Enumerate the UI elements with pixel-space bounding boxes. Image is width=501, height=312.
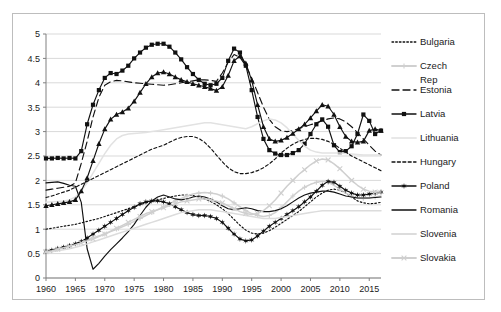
x-tick-label: 1965	[65, 284, 85, 294]
marker-star	[273, 219, 278, 225]
marker-triangle	[320, 102, 325, 107]
marker-triangle	[225, 73, 230, 78]
marker-square	[56, 156, 60, 160]
y-tick-label: 0	[35, 273, 40, 283]
legend-item-slovenia[interactable]: Slovenia	[392, 228, 457, 239]
legend-item-hungary[interactable]: Hungary	[392, 156, 456, 167]
marker-x	[337, 166, 342, 171]
marker-square	[126, 64, 130, 68]
legend-item-slovakia[interactable]: Slovakia	[392, 252, 457, 263]
marker-triangle	[267, 136, 272, 141]
y-tick-label: 2.5	[27, 151, 40, 161]
marker-x	[267, 203, 272, 208]
legend-label: Lithuania	[420, 132, 459, 143]
marker-square	[150, 43, 154, 47]
marker-triangle	[255, 102, 260, 107]
marker-square	[120, 69, 124, 73]
marker-square	[314, 122, 318, 126]
marker-square	[367, 119, 371, 123]
chart-screenshot: 00.511.522.533.544.551960196519701975198…	[0, 0, 501, 312]
y-tick-label: 3.5	[27, 103, 40, 113]
marker-triangle	[96, 141, 101, 146]
marker-cross	[402, 64, 407, 69]
x-axis-ticks: 1960196519701975198019851990199520002005…	[36, 278, 379, 294]
y-tick-label: 4	[35, 78, 40, 88]
marker-star	[102, 223, 107, 229]
marker-square	[291, 151, 295, 155]
line-chart: 00.511.522.533.544.551960196519701975198…	[0, 0, 501, 312]
marker-x	[279, 191, 284, 196]
marker-square	[402, 112, 406, 116]
legend: BulgariaCzechRepEstoniaLatviaLithuaniaHu…	[392, 36, 459, 263]
legend-item-czech[interactable]: Czech	[392, 60, 447, 71]
y-axis-ticks: 00.511.522.533.544.55	[27, 29, 46, 283]
marker-square	[197, 78, 201, 82]
marker-triangle	[284, 135, 289, 140]
legend-item-latvia[interactable]: Latvia	[392, 108, 446, 119]
legend-item-poland[interactable]: Poland	[392, 180, 450, 191]
x-tick-label: 2015	[359, 284, 379, 294]
marker-square	[103, 76, 107, 80]
y-tick-label: 0.5	[27, 249, 40, 259]
marker-square	[156, 42, 160, 46]
marker-square	[350, 144, 354, 148]
marker-triangle	[149, 74, 154, 79]
legend-item-lithuania[interactable]: Lithuania	[392, 132, 459, 143]
marker-square	[297, 148, 301, 152]
x-tick-label: 2000	[271, 284, 291, 294]
legend-label: Estonia	[420, 84, 452, 95]
series-line	[46, 189, 381, 234]
marker-square	[132, 56, 136, 60]
series-romania	[46, 182, 381, 269]
marker-cross	[208, 191, 213, 196]
marker-square	[361, 112, 365, 116]
marker-triangle	[90, 158, 95, 163]
x-tick-label: 1970	[95, 284, 115, 294]
x-tick-label: 1995	[242, 284, 262, 294]
marker-triangle	[173, 74, 178, 79]
y-tick-label: 1	[35, 225, 40, 235]
y-tick-label: 5	[35, 29, 40, 39]
legend-label: Czech	[420, 60, 447, 71]
legend-item-estonia[interactable]: Estonia	[392, 84, 452, 95]
marker-square	[273, 151, 277, 155]
marker-star	[90, 231, 95, 237]
legend-label: Romania	[420, 204, 459, 215]
marker-square	[373, 132, 377, 136]
legend-item-bulgaria[interactable]: Bulgaria	[392, 36, 456, 47]
marker-square	[62, 156, 66, 160]
marker-square	[261, 137, 265, 141]
marker-square	[114, 72, 118, 76]
marker-square	[73, 156, 77, 160]
marker-triangle	[120, 109, 125, 114]
marker-square	[226, 59, 230, 63]
marker-triangle	[220, 84, 225, 89]
marker-square	[167, 45, 171, 49]
marker-square	[267, 148, 271, 152]
legend-label: Bulgaria	[420, 36, 456, 47]
x-tick-label: 2010	[330, 284, 350, 294]
series-line	[46, 182, 381, 269]
marker-star	[96, 227, 101, 233]
x-tick-label: 1990	[212, 284, 232, 294]
series-poland	[43, 178, 383, 254]
marker-square	[161, 42, 165, 46]
chart-plot-wrapper: 00.511.522.533.544.551960196519701975198…	[0, 0, 501, 312]
series-line	[46, 44, 381, 159]
marker-square	[285, 153, 289, 157]
marker-star	[120, 212, 125, 218]
marker-square	[326, 125, 330, 129]
marker-cross	[267, 213, 272, 218]
marker-triangle	[261, 124, 266, 129]
marker-square	[173, 50, 177, 54]
marker-square	[185, 65, 189, 69]
marker-square	[85, 122, 89, 126]
marker-square	[138, 50, 142, 54]
legend-item-romania[interactable]: Romania	[392, 204, 459, 215]
x-tick-label: 1975	[124, 284, 144, 294]
x-tick-label: 2005	[300, 284, 320, 294]
y-tick-label: 1.5	[27, 200, 40, 210]
marker-triangle	[84, 175, 89, 180]
marker-square	[232, 47, 236, 51]
y-tick-label: 3	[35, 127, 40, 137]
